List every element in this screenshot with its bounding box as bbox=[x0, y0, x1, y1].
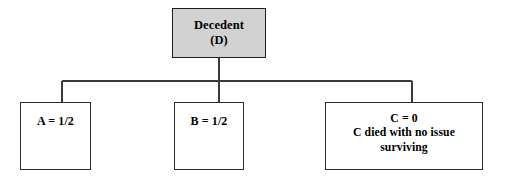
node-decedent-label-line1: Decedent bbox=[194, 18, 244, 33]
node-decedent-label: Decedent (D) bbox=[190, 18, 248, 49]
node-decedent-label-line2: (D) bbox=[194, 33, 244, 48]
node-child-c: C = 0 C died with no issue surviving bbox=[325, 102, 483, 170]
node-child-c-label-line1: C = 0 bbox=[353, 112, 455, 126]
node-child-b: B = 1/2 bbox=[174, 102, 244, 170]
node-child-a: A = 1/2 bbox=[20, 102, 91, 170]
node-child-a-label-line1: A = 1/2 bbox=[37, 114, 74, 129]
node-child-a-label: A = 1/2 bbox=[37, 114, 74, 129]
node-child-c-label: C = 0 C died with no issue surviving bbox=[353, 112, 455, 155]
node-child-b-label: B = 1/2 bbox=[191, 114, 228, 129]
node-child-b-label-line1: B = 1/2 bbox=[191, 114, 228, 129]
node-child-c-label-line3: surviving bbox=[353, 141, 455, 155]
intestacy-distribution-diagram: Decedent (D) A = 1/2 B = 1/2 C = 0 C die… bbox=[0, 0, 505, 182]
node-decedent: Decedent (D) bbox=[172, 8, 266, 58]
node-child-c-label-line2: C died with no issue bbox=[353, 126, 455, 140]
